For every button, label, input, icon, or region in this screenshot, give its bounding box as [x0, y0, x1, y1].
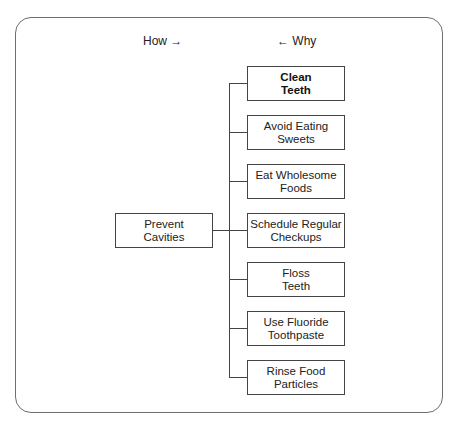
node-line: Rinse Food	[267, 365, 326, 378]
node-line: Use Fluoride	[263, 316, 328, 329]
node-line: Prevent	[144, 218, 184, 231]
branch-connector	[229, 377, 247, 378]
node-line: Foods	[280, 182, 312, 195]
node-use-fluoride-toothpaste: Use Fluoride Toothpaste	[247, 311, 345, 346]
node-rinse-food-particles: Rinse Food Particles	[247, 360, 345, 395]
node-schedule-regular-checkups: Schedule Regular Checkups	[247, 213, 345, 248]
node-line: Schedule Regular	[250, 218, 341, 231]
node-line: Teeth	[282, 280, 310, 293]
branch-connector	[229, 230, 247, 231]
node-line: Toothpaste	[268, 329, 324, 342]
node-line: Particles	[274, 378, 318, 391]
branch-connector	[229, 132, 247, 133]
branch-connector	[229, 181, 247, 182]
node-eat-wholesome-foods: Eat Wholesome Foods	[247, 164, 345, 199]
node-line: Avoid Eating	[264, 120, 328, 133]
branch-connector	[229, 328, 247, 329]
node-line: Floss	[282, 267, 309, 280]
how-label: How →	[143, 34, 182, 48]
why-label: ← Why	[277, 34, 316, 48]
root-connector	[212, 230, 230, 231]
node-line: Clean	[280, 71, 311, 84]
node-line: Teeth	[281, 84, 311, 97]
node-clean-teeth: Clean Teeth	[247, 66, 345, 101]
root-node-prevent-cavities: Prevent Cavities	[115, 213, 213, 248]
branch-connector	[229, 83, 247, 84]
node-line: Cavities	[144, 231, 185, 244]
node-avoid-eating-sweets: Avoid Eating Sweets	[247, 115, 345, 150]
node-floss-teeth: Floss Teeth	[247, 262, 345, 297]
node-line: Sweets	[277, 133, 315, 146]
branch-connector	[229, 279, 247, 280]
node-line: Checkups	[270, 231, 321, 244]
node-line: Eat Wholesome	[255, 169, 336, 182]
